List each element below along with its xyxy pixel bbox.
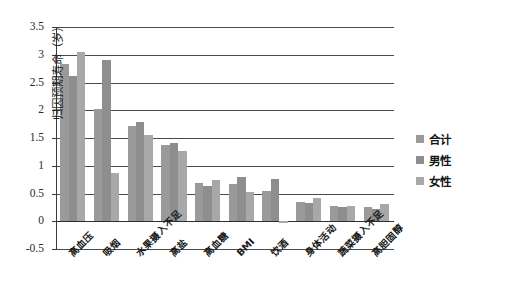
bar-group <box>195 27 220 249</box>
bar-group <box>94 27 119 249</box>
legend-swatch-icon <box>416 135 424 143</box>
y-axis-tick-label: 3.5 <box>0 21 44 33</box>
bar-group <box>229 27 254 249</box>
bar-group <box>296 27 321 249</box>
bar-group <box>330 27 355 249</box>
bar <box>128 126 136 221</box>
bar <box>77 52 85 221</box>
x-axis-category-labels: 高血压吸烟水果摄入不足高盐高血糖BMI饮酒身体活动蔬菜摄入不足高胆固醇 <box>56 249 393 297</box>
bar <box>271 179 279 222</box>
bar <box>338 207 346 221</box>
legend-label: 合计 <box>429 131 451 147</box>
bar <box>229 184 237 222</box>
y-axis-tick-label: 1.5 <box>0 132 44 144</box>
bar <box>111 173 119 221</box>
legend-swatch-icon <box>416 177 424 185</box>
bars-layer <box>57 27 394 249</box>
legend-item: 女性 <box>416 170 504 191</box>
plot-area <box>56 27 393 249</box>
chart-container: 3.532.521.510.50-0.5 归因预期寿命（岁） 高血压吸烟水果摄入… <box>0 0 511 297</box>
y-axis-tick-label: 2.5 <box>0 77 44 89</box>
y-axis-label: 归因预期寿命（岁） <box>49 5 65 135</box>
bar <box>305 203 313 221</box>
bar <box>296 202 304 221</box>
bar <box>195 183 203 221</box>
y-axis-tick-label: 2 <box>0 104 44 116</box>
bar <box>102 60 110 221</box>
y-axis-tick-label: 0 <box>0 215 44 227</box>
bar <box>246 192 254 221</box>
chart-legend: 合计男性女性 <box>416 128 504 191</box>
bar <box>94 109 102 222</box>
bar <box>313 198 321 221</box>
y-axis-tick-label: 3 <box>0 49 44 61</box>
bar <box>237 177 245 221</box>
bar <box>144 135 152 221</box>
bar-group <box>128 27 153 249</box>
bar <box>279 221 287 223</box>
y-axis-tick-label: 1 <box>0 160 44 172</box>
bar <box>212 180 220 222</box>
bar <box>203 186 211 222</box>
legend-item: 男性 <box>416 149 504 170</box>
bar <box>262 191 270 222</box>
legend-item: 合计 <box>416 128 504 149</box>
legend-label: 男性 <box>429 152 451 168</box>
bar-group <box>262 27 287 249</box>
bar <box>347 206 355 222</box>
bar <box>161 145 169 221</box>
bar <box>69 76 77 221</box>
bar <box>136 122 144 221</box>
legend-swatch-icon <box>416 156 424 164</box>
y-axis-tick-label: -0.5 <box>0 243 44 255</box>
legend-label: 女性 <box>429 173 451 189</box>
bar <box>330 206 338 221</box>
y-axis-tick-label: 0.5 <box>0 188 44 200</box>
